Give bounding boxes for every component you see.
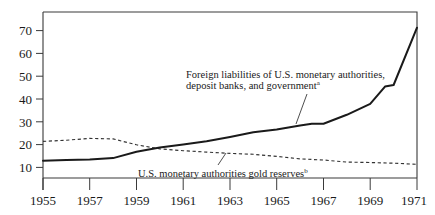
foreign-liabilities-superscript: a bbox=[317, 79, 321, 87]
line-chart-svg: 70 60 50 40 30 20 10 1955 1957 1959 1961 bbox=[0, 0, 435, 215]
x-tick-label-1955: 1955 bbox=[30, 193, 56, 208]
gold-reserves-label-text: U.S. monetary authorities gold reserves bbox=[138, 168, 304, 179]
annotation-gold-reserves: U.S. monetary authorities gold reservesb bbox=[138, 153, 308, 179]
x-tick-label-1971: 1971 bbox=[401, 193, 427, 208]
y-axis-labels: 70 60 50 40 30 20 10 bbox=[19, 23, 32, 175]
foreign-liabilities-label-line2: deposit banks, and governmenta bbox=[186, 79, 321, 91]
series-gold-reserves-line bbox=[43, 138, 417, 164]
annotation-foreign-liabilities: Foreign liabilities of U.S. monetary aut… bbox=[186, 69, 385, 124]
foreign-liabilities-label-line1: Foreign liabilities of U.S. monetary aut… bbox=[186, 69, 385, 80]
y-tick-label-40: 40 bbox=[19, 92, 32, 107]
y-tick-label-20: 20 bbox=[19, 137, 32, 152]
y-tick-label-50: 50 bbox=[19, 69, 32, 84]
y-tick-label-30: 30 bbox=[19, 115, 32, 130]
plot-frame bbox=[43, 12, 417, 190]
x-tick-label-1957: 1957 bbox=[77, 193, 104, 208]
x-tick-label-1965: 1965 bbox=[264, 193, 290, 208]
foreign-liabilities-label-line2-text: deposit banks, and government bbox=[186, 80, 317, 91]
x-axis-labels: 1955 1957 1959 1961 1963 1965 1967 1969 … bbox=[30, 193, 427, 208]
x-tick-label-1959: 1959 bbox=[124, 193, 150, 208]
gold-reserves-superscript: b bbox=[304, 167, 308, 175]
x-tick-label-1969: 1969 bbox=[357, 193, 383, 208]
y-tick-label-60: 60 bbox=[19, 46, 32, 61]
x-tick-label-1967: 1967 bbox=[311, 193, 338, 208]
series-foreign-liabilities-line bbox=[43, 28, 417, 161]
gold-reserves-label-line1: U.S. monetary authorities gold reservesb bbox=[138, 167, 308, 179]
chart-figure: 70 60 50 40 30 20 10 1955 1957 1959 1961 bbox=[0, 0, 435, 215]
x-tick-label-1961: 1961 bbox=[170, 193, 196, 208]
y-tick-label-10: 10 bbox=[19, 160, 32, 175]
y-tick-label-70: 70 bbox=[19, 23, 32, 38]
y-axis-ticks bbox=[36, 31, 43, 168]
x-tick-label-1963: 1963 bbox=[217, 193, 243, 208]
x-axis-ticks bbox=[43, 178, 417, 190]
